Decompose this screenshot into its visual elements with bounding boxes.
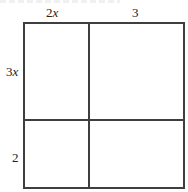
variable: x — [53, 5, 59, 20]
cell-r1-c0 — [24, 121, 89, 188]
cell-r1-c1 — [90, 121, 184, 188]
variable: x — [13, 64, 19, 79]
grid-top-border — [23, 22, 185, 24]
grid-vertical-divider — [88, 22, 90, 189]
top-label-2x: 2x — [46, 6, 58, 19]
cropped-text-residue — [0, 0, 120, 3]
grid-horizontal-divider — [23, 119, 185, 121]
cell-r0-c0 — [24, 23, 89, 120]
grid-right-border — [183, 22, 185, 189]
coefficient: 3 — [132, 5, 139, 20]
cell-r0-c1 — [90, 23, 184, 120]
coefficient: 2 — [12, 150, 19, 165]
top-label-3: 3 — [132, 6, 139, 19]
grid-bottom-border — [23, 187, 185, 189]
side-label-3x: 3x — [6, 65, 18, 78]
side-label-2: 2 — [12, 151, 19, 164]
grid-left-border — [23, 22, 25, 189]
